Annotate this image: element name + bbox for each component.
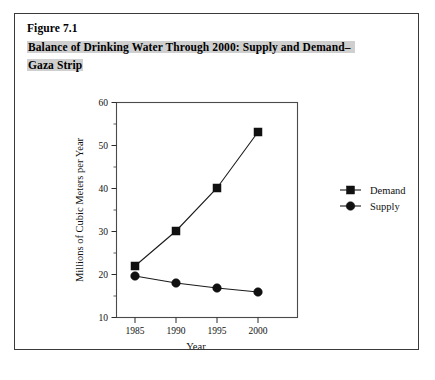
- figure-title-block: Figure 7.1 Balance of Drinking Water Thr…: [27, 21, 367, 73]
- demand-marker: [172, 227, 180, 235]
- demand-line: [135, 132, 258, 266]
- y-axis-ticks: [112, 103, 117, 318]
- series-demand: [131, 128, 262, 270]
- y-tick-label: 20: [99, 270, 109, 280]
- demand-marker: [131, 262, 139, 270]
- figure-number: Figure 7.1: [27, 21, 367, 36]
- legend-item-demand: Demand: [340, 185, 406, 196]
- y-tick-label: 50: [99, 141, 109, 151]
- supply-marker: [131, 272, 140, 281]
- x-tick-label: 2000: [249, 326, 268, 336]
- y-tick-label: 40: [99, 184, 109, 194]
- series-supply: [131, 272, 263, 297]
- line-chart: 60 50 40 30 20 10 1985 1990 1995 2000: [15, 74, 418, 349]
- demand-marker: [213, 184, 221, 192]
- demand-marker: [254, 128, 262, 136]
- figure-caption: Balance of Drinking Water Through 2000: …: [27, 41, 355, 71]
- y-tick-label: 60: [99, 98, 109, 108]
- supply-marker: [254, 288, 263, 297]
- figure-caption-wrap: Balance of Drinking Water Through 2000: …: [27, 37, 367, 73]
- legend-circle-icon: [346, 202, 355, 211]
- x-axis-ticks: [135, 318, 258, 324]
- supply-marker: [172, 279, 181, 288]
- legend-label-demand: Demand: [370, 185, 406, 196]
- y-tick-label: 30: [99, 227, 109, 237]
- x-axis-title: Year: [186, 341, 206, 349]
- y-axis-title: Millions of Cubic Meters per Year: [74, 137, 85, 282]
- x-axis-tick-labels: 1985 1990 1995 2000: [126, 326, 268, 336]
- chart-plot-area: 60 50 40 30 20 10 1985 1990 1995 2000: [15, 74, 418, 349]
- legend-item-supply: Supply: [340, 201, 401, 212]
- x-tick-label: 1990: [167, 326, 186, 336]
- x-tick-label: 1995: [208, 326, 227, 336]
- legend-label-supply: Supply: [370, 201, 401, 212]
- y-tick-label: 10: [99, 313, 109, 323]
- plot-frame: [117, 103, 298, 318]
- supply-marker: [213, 284, 222, 293]
- chart-legend: Demand Supply: [340, 185, 406, 212]
- x-tick-label: 1985: [126, 326, 145, 336]
- y-axis-tick-labels: 60 50 40 30 20 10: [99, 98, 109, 323]
- legend-square-icon: [347, 186, 355, 194]
- supply-line: [135, 276, 258, 292]
- figure-container: Figure 7.1 Balance of Drinking Water Thr…: [14, 13, 419, 350]
